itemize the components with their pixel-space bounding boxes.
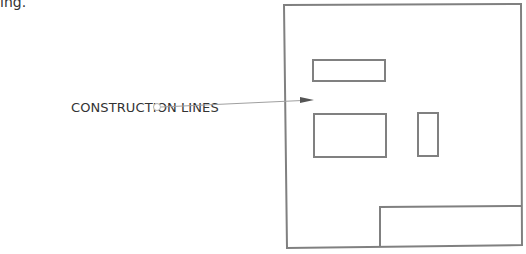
leader-line [161,101,302,108]
callout-circle-icon [154,104,161,111]
narrow-rect [418,113,438,156]
arrowhead-icon [300,97,314,103]
drawing-canvas [0,0,526,254]
outer-frame [284,4,522,248]
top-rect [313,60,385,81]
bottom-right-rect [380,206,521,246]
middle-left-rect [314,114,386,157]
